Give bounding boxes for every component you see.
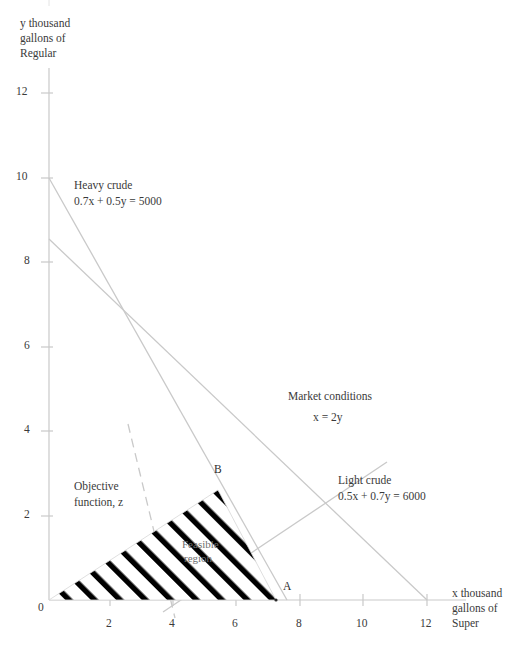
y-tick-label-4: 4 — [24, 423, 30, 435]
x-axis-label: x thousand gallons of Super — [452, 586, 502, 631]
objective-function-label-1: Objective — [74, 479, 119, 494]
vertex-a-marker — [274, 598, 277, 601]
y-tick-label-2: 2 — [24, 508, 30, 520]
y-tick-label-8: 8 — [24, 254, 30, 266]
objective-function-label-2: function, z — [74, 495, 123, 510]
light-crude-equation: 0.5x + 0.7y = 6000 — [338, 489, 426, 504]
x-tick-label-2: 2 — [106, 617, 112, 629]
heavy-crude-label: Heavy crude — [74, 178, 132, 193]
vertex-label-b: B — [214, 463, 222, 475]
vertex-label-a: A — [283, 580, 291, 592]
y-tick-label-12: 12 — [16, 85, 28, 97]
x-tick-label-6: 6 — [232, 617, 238, 629]
market-conditions-label: Market conditions — [288, 389, 372, 404]
feasible-region-label-1: Feasible — [182, 537, 219, 551]
y-tick-label-6: 6 — [24, 339, 30, 351]
market-conditions-equation: x = 2y — [313, 410, 343, 425]
x-tick-label-12: 12 — [420, 617, 432, 629]
heavy-crude-equation: 0.7x + 0.5y = 5000 — [74, 194, 162, 209]
x-tick-label-10: 10 — [356, 617, 368, 629]
origin-label: 0 — [38, 601, 44, 613]
y-tick-label-10: 10 — [16, 170, 28, 182]
light-crude-label: Light crude — [338, 473, 391, 488]
y-axis-label: y thousand gallons of Regular — [20, 16, 70, 61]
feasible-region-label-2: region — [184, 551, 212, 565]
x-tick-label-4: 4 — [169, 617, 175, 629]
x-tick-label-8: 8 — [296, 617, 302, 629]
y-axis-ticks — [41, 93, 53, 516]
linear-programming-chart — [0, 0, 517, 647]
